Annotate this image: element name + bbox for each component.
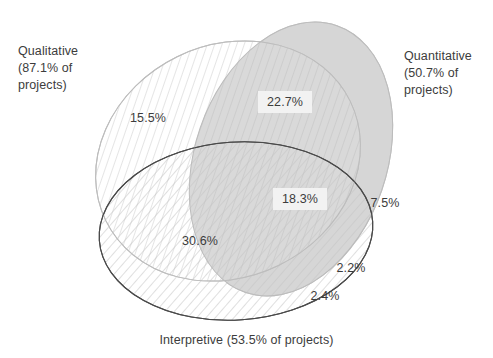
set-label-interpretive: Interpretive (53.5% of projects)	[0, 332, 493, 349]
region-value-qualitative-quantitative: 22.7%	[258, 91, 312, 113]
region-value-all-three: 18.3%	[273, 188, 327, 210]
venn-diagram: Qualitative (87.1% of projects) Quantita…	[0, 0, 493, 358]
region-value-quantitative-only: 7.5%	[371, 196, 400, 210]
region-value-qualitative-interpretive: 30.6%	[182, 234, 218, 248]
region-value-interpretive-only: 2.4%	[311, 289, 340, 303]
region-value-quantitative-interpretive: 2.2%	[337, 261, 366, 275]
set-label-qualitative: Qualitative (87.1% of projects)	[18, 43, 128, 94]
set-label-quantitative: Quantitative (50.7% of projects)	[404, 48, 493, 99]
region-value-qualitative-only: 15.5%	[130, 111, 166, 125]
